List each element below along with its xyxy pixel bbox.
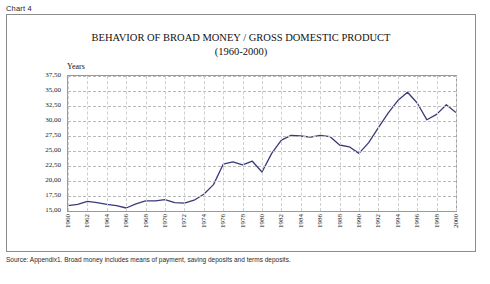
y-axis-tick-label: 37,50 xyxy=(45,71,61,79)
gridline-vertical xyxy=(398,76,399,211)
x-axis-tick-label: 2000 xyxy=(452,214,460,228)
plot-area xyxy=(67,75,457,212)
x-axis-tick-label: 1962 xyxy=(83,214,91,228)
x-axis-tick-label: 1980 xyxy=(258,214,266,228)
x-axis-labels: 1960196219641966196819701972197419761978… xyxy=(67,214,457,256)
y-axis-labels: 37,5035,0032,5030,0027,5025,0022,5020,00… xyxy=(29,75,63,212)
gridline-vertical xyxy=(301,76,302,211)
gridline-vertical xyxy=(281,76,282,211)
chart-frame: BEHAVIOR OF BROAD MONEY / GROSS DOMESTIC… xyxy=(6,14,476,252)
x-axis-tick-label: 1990 xyxy=(355,214,363,228)
x-axis-tick-label: 1968 xyxy=(142,214,150,228)
y-axis-tick-label: 15,00 xyxy=(45,206,61,214)
gridline-vertical xyxy=(87,76,88,211)
gridline-vertical xyxy=(359,76,360,211)
gridline-vertical xyxy=(437,76,438,211)
gridline-vertical xyxy=(456,76,457,211)
gridline-vertical xyxy=(184,76,185,211)
gridline-vertical xyxy=(126,76,127,211)
gridline-vertical xyxy=(165,76,166,211)
gridline-vertical xyxy=(204,76,205,211)
y-axis-tick-label: 32,50 xyxy=(45,101,61,109)
gridline-vertical xyxy=(417,76,418,211)
gridline-vertical xyxy=(378,76,379,211)
x-axis-tick-label: 1974 xyxy=(200,214,208,228)
x-axis-tick-label: 1998 xyxy=(433,214,441,228)
y-axis-tick-label: 22,50 xyxy=(45,161,61,169)
x-axis-tick-label: 1996 xyxy=(413,214,421,228)
gridline-vertical xyxy=(146,76,147,211)
x-axis-tick-label: 1972 xyxy=(180,214,188,228)
y-axis-tick-label: 25,00 xyxy=(45,146,61,154)
gridline-vertical xyxy=(320,76,321,211)
gridline-vertical xyxy=(243,76,244,211)
x-axis-tick-label: 1966 xyxy=(122,214,130,228)
x-axis-tick-label: 1976 xyxy=(219,214,227,228)
y-axis-tick-label: 27,50 xyxy=(45,131,61,139)
gridline-vertical xyxy=(68,76,69,211)
x-axis-tick-label: 1988 xyxy=(336,214,344,228)
x-axis-tick-label: 1964 xyxy=(103,214,111,228)
y-axis-tick-label: 20,00 xyxy=(45,176,61,184)
x-axis-tick-label: 1978 xyxy=(239,214,247,228)
source-note: Source: Appendix1. Broad money includes … xyxy=(6,256,291,263)
gridline-vertical xyxy=(223,76,224,211)
chart-page: Chart 4 BEHAVIOR OF BROAD MONEY / GROSS … xyxy=(0,0,490,284)
plot-wrapper: 37,5035,0032,5030,0027,5025,0022,5020,00… xyxy=(7,15,477,253)
x-axis-tick-label: 1984 xyxy=(297,214,305,228)
x-axis-tick-label: 1970 xyxy=(161,214,169,228)
x-axis-tick-label: 1994 xyxy=(394,214,402,228)
gridline-vertical xyxy=(107,76,108,211)
y-axis-tick-label: 30,00 xyxy=(45,116,61,124)
x-axis-tick-label: 1992 xyxy=(374,214,382,228)
x-axis-tick-label: 1982 xyxy=(277,214,285,228)
y-axis-tick-label: 35,00 xyxy=(45,86,61,94)
x-axis-tick-label: 1960 xyxy=(64,214,72,228)
chart-number-label: Chart 4 xyxy=(6,4,32,13)
x-axis-tick-label: 1986 xyxy=(316,214,324,228)
gridline-vertical xyxy=(340,76,341,211)
y-axis-tick-label: 17,50 xyxy=(45,191,61,199)
gridline-vertical xyxy=(262,76,263,211)
